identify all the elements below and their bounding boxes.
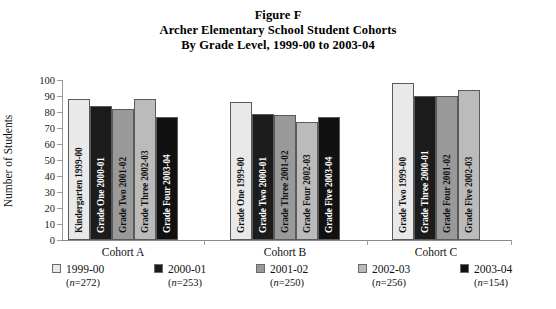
- y-tick-label: 0: [50, 235, 55, 246]
- legend-swatch: [256, 264, 265, 273]
- bar: Grade Three 2001-0278: [274, 115, 296, 240]
- bar: Grade One 2000-0184: [90, 106, 112, 240]
- y-tick-label: 40: [45, 171, 56, 182]
- bar-label: Grade Five 2003-04: [324, 157, 334, 233]
- legend-sample-size: (n=272): [66, 277, 152, 288]
- bar-label: Grade Three 2002-03: [140, 151, 150, 233]
- legend-swatch: [52, 264, 61, 273]
- y-tick-label: 70: [45, 123, 56, 134]
- y-tick-mark: [57, 160, 62, 161]
- figure-title: Figure F Archer Elementary School Studen…: [0, 8, 556, 53]
- y-tick-mark: [57, 96, 62, 97]
- bar-label: Grade One 1999-00: [236, 157, 246, 233]
- bar-label: Grade Three 2001-02: [280, 151, 290, 233]
- bar: Grade Four 2002-0374: [296, 122, 318, 240]
- legend-label: 2000-01: [168, 263, 206, 275]
- legend-swatch: [358, 264, 367, 273]
- y-tick-mark: [57, 128, 62, 129]
- bar-label: Grade Four 2003-04: [162, 154, 172, 233]
- x-axis-group-label: Cohort A: [102, 246, 145, 258]
- x-axis-group-separator-tick: [204, 240, 205, 245]
- bar: Grade Four 2001-0290: [436, 96, 458, 240]
- y-axis-title: Number of Students: [2, 81, 14, 241]
- legend-sample-size: (n=154): [474, 277, 556, 288]
- bar-label: Grade Two 1999-00: [398, 157, 408, 233]
- legend: 1999-00(n=272)2000-01(n=253)2001-02(n=25…: [52, 262, 522, 296]
- title-line-school: Archer Elementary School Student Cohorts: [0, 23, 556, 38]
- legend-swatch: [154, 264, 163, 273]
- x-axis-group-separator-tick: [367, 240, 368, 245]
- y-tick-mark: [57, 208, 62, 209]
- legend-item: 2001-02(n=250): [256, 262, 356, 288]
- bar: Kindergarten 1999-0088: [68, 99, 90, 240]
- y-tick-mark: [57, 224, 62, 225]
- y-tick-mark: [57, 112, 62, 113]
- bar: Grade One 1999-0086: [230, 102, 252, 240]
- bar-label: Grade One 2000-01: [96, 157, 106, 233]
- legend-item: 2002-03(n=256): [358, 262, 458, 288]
- bar-label: Grade Two 2001-02: [118, 157, 128, 233]
- legend-label: 2001-02: [270, 263, 308, 275]
- legend-swatch: [460, 264, 469, 273]
- legend-item: 2000-01(n=253): [154, 262, 254, 288]
- bar: Grade Two 2000-0179: [252, 114, 274, 240]
- plot-area: 0102030405060708090100 Kindergarten 1999…: [62, 80, 512, 240]
- bar-label: Kindergarten 1999-00: [74, 147, 84, 233]
- title-line-figure-number: Figure F: [0, 8, 556, 23]
- x-axis-group-label: Cohort C: [415, 246, 458, 258]
- legend-label: 2003-04: [474, 263, 512, 275]
- y-tick-mark: [57, 80, 62, 81]
- y-tick-mark: [57, 144, 62, 145]
- x-axis-line: [62, 240, 512, 241]
- y-tick-label: 50: [45, 155, 56, 166]
- x-axis-group-separator-tick: [511, 240, 512, 245]
- y-tick-label: 80: [45, 107, 56, 118]
- bar: Grade Five 2003-0477: [318, 117, 340, 240]
- y-axis-line: [62, 80, 63, 240]
- legend-item: 1999-00(n=272): [52, 262, 152, 288]
- x-axis-group-label: Cohort B: [264, 246, 307, 258]
- bar-label: Grade Four 2002-03: [302, 154, 312, 233]
- y-tick-mark: [57, 192, 62, 193]
- bar-label: Grade Three 2000-01: [420, 151, 430, 233]
- bar-label: Grade Five 2002-03: [464, 157, 474, 233]
- y-tick-label: 10: [45, 219, 56, 230]
- y-tick-label: 100: [39, 75, 55, 86]
- y-tick-label: 20: [45, 203, 56, 214]
- bar: Grade Five 2002-0394: [458, 90, 480, 240]
- y-tick-mark: [57, 176, 62, 177]
- legend-label: 2002-03: [372, 263, 410, 275]
- legend-label: 1999-00: [66, 263, 104, 275]
- bar: Grade Two 1999-0098: [392, 83, 414, 240]
- legend-sample-size: (n=250): [270, 277, 356, 288]
- bar: Grade Four 2003-0477: [156, 117, 178, 240]
- y-tick-label: 30: [45, 187, 56, 198]
- y-tick-label: 60: [45, 139, 56, 150]
- bar: Grade Three 2000-0190: [414, 96, 436, 240]
- y-tick-label: 90: [45, 91, 56, 102]
- bar-label: Grade Two 2000-01: [258, 157, 268, 233]
- y-tick-mark: [57, 240, 62, 241]
- bar: Grade Three 2002-0388: [134, 99, 156, 240]
- figure-container: Figure F Archer Elementary School Studen…: [0, 0, 556, 309]
- bar: Grade Two 2001-0282: [112, 109, 134, 240]
- legend-sample-size: (n=256): [372, 277, 458, 288]
- legend-item: 2003-04(n=154): [460, 262, 556, 288]
- title-line-subtitle: By Grade Level, 1999-00 to 2003-04: [0, 38, 556, 53]
- bar-label: Grade Four 2001-02: [442, 154, 452, 233]
- legend-sample-size: (n=253): [168, 277, 254, 288]
